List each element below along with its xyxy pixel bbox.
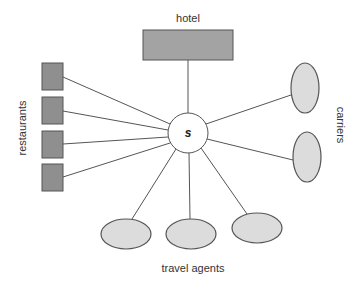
hotel-label: hotel bbox=[176, 12, 200, 24]
travel-agent-node-2 bbox=[166, 219, 216, 249]
edge-agent-3 bbox=[201, 148, 247, 214]
hub-diagram: hotel restaurants carriers travel agents… bbox=[0, 0, 363, 285]
carrier-node-1 bbox=[291, 63, 319, 113]
hub-label: s bbox=[185, 126, 192, 140]
edge-restaurant-3 bbox=[63, 137, 168, 144]
edge-restaurant-2 bbox=[63, 111, 168, 130]
travel-agents-label: travel agents bbox=[162, 262, 225, 274]
carriers-label: carriers bbox=[335, 107, 347, 144]
restaurant-node-2 bbox=[42, 97, 63, 124]
edge-agent-1 bbox=[132, 149, 176, 219]
edge-carrier-2 bbox=[207, 139, 293, 160]
edge-carrier-1 bbox=[206, 95, 291, 124]
edge-agent-2 bbox=[189, 153, 190, 219]
travel-agent-node-1 bbox=[101, 219, 151, 249]
travel-agent-node-3 bbox=[232, 213, 282, 243]
edge-restaurant-4 bbox=[63, 143, 170, 177]
hotel-node bbox=[143, 30, 233, 60]
restaurant-node-3 bbox=[42, 131, 63, 158]
restaurants-label: restaurants bbox=[16, 100, 28, 156]
edge-restaurant-1 bbox=[63, 77, 170, 124]
restaurant-node-4 bbox=[42, 164, 63, 191]
restaurant-node-1 bbox=[42, 63, 63, 90]
carrier-node-2 bbox=[293, 132, 321, 182]
